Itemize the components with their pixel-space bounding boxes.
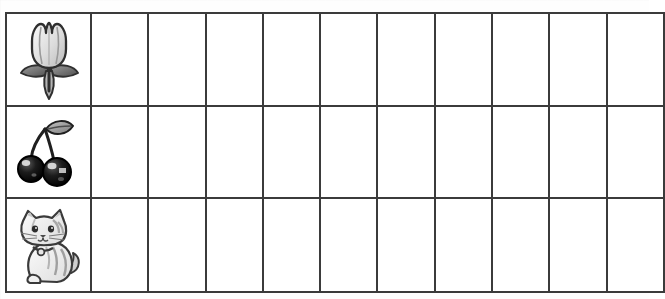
tulip-icon xyxy=(7,14,90,105)
blank-cell[interactable] xyxy=(91,13,148,106)
blank-cell[interactable] xyxy=(549,106,606,198)
blank-cell[interactable] xyxy=(148,106,205,198)
cat-label: Cat xyxy=(49,291,50,292)
blank-cell[interactable] xyxy=(206,13,263,106)
blank-cell[interactable] xyxy=(377,198,434,292)
blank-cell[interactable] xyxy=(320,106,377,198)
blank-cell[interactable] xyxy=(435,106,492,198)
blank-cell[interactable] xyxy=(492,106,549,198)
blank-cell[interactable] xyxy=(607,106,664,198)
blank-cell[interactable] xyxy=(320,198,377,292)
blank-cell[interactable] xyxy=(148,198,205,292)
cat-cell[interactable]: Cat xyxy=(6,198,91,292)
table-row: Tulip xyxy=(6,13,664,106)
blank-cell[interactable] xyxy=(607,13,664,106)
blank-cell[interactable] xyxy=(206,106,263,198)
cherries-icon xyxy=(7,107,90,197)
blank-cell[interactable] xyxy=(492,198,549,292)
picture-graph-grid: Tulip xyxy=(5,12,665,293)
cherries-cell[interactable]: Cherries xyxy=(6,106,91,198)
blank-cell[interactable] xyxy=(148,13,205,106)
cat-icon xyxy=(7,199,90,291)
blank-cell[interactable] xyxy=(91,198,148,292)
blank-cell[interactable] xyxy=(435,13,492,106)
blank-cell[interactable] xyxy=(320,13,377,106)
blank-cell[interactable] xyxy=(263,106,320,198)
blank-cell[interactable] xyxy=(607,198,664,292)
tulip-cell[interactable]: Tulip xyxy=(6,13,91,106)
blank-cell[interactable] xyxy=(377,13,434,106)
grid-body: Tulip xyxy=(6,13,664,292)
blank-cell[interactable] xyxy=(263,198,320,292)
blank-cell[interactable] xyxy=(549,13,606,106)
blank-cell[interactable] xyxy=(91,106,148,198)
blank-cell[interactable] xyxy=(549,198,606,292)
blank-cell[interactable] xyxy=(377,106,434,198)
blank-cell[interactable] xyxy=(206,198,263,292)
blank-cell[interactable] xyxy=(435,198,492,292)
blank-cell[interactable] xyxy=(492,13,549,106)
table-row: Cherries xyxy=(6,106,664,198)
table-row: Cat xyxy=(6,198,664,292)
blank-cell[interactable] xyxy=(263,13,320,106)
